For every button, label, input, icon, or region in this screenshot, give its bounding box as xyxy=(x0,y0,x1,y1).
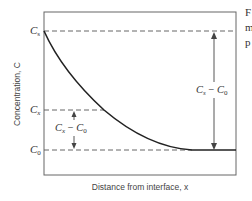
cs-label: Cs xyxy=(30,24,40,38)
x-axis-title: Distance from interface, x xyxy=(92,182,189,192)
caption-fragment: F xyxy=(245,6,251,18)
c0-label: C0 xyxy=(30,143,41,157)
y-axis-title: Concentration, C xyxy=(12,62,22,126)
cx-label: Cx xyxy=(30,103,41,117)
cs-minus-c0-label: Cs − C0 xyxy=(196,84,228,97)
diffusion-diagram: Cs Cx C0 Cs − C0 Cx − C0 Distance from i… xyxy=(0,0,252,201)
cx-minus-c0-label: Cx − C0 xyxy=(55,122,87,135)
caption-fragment: m xyxy=(245,21,252,33)
caption-fragment: p xyxy=(245,36,251,48)
